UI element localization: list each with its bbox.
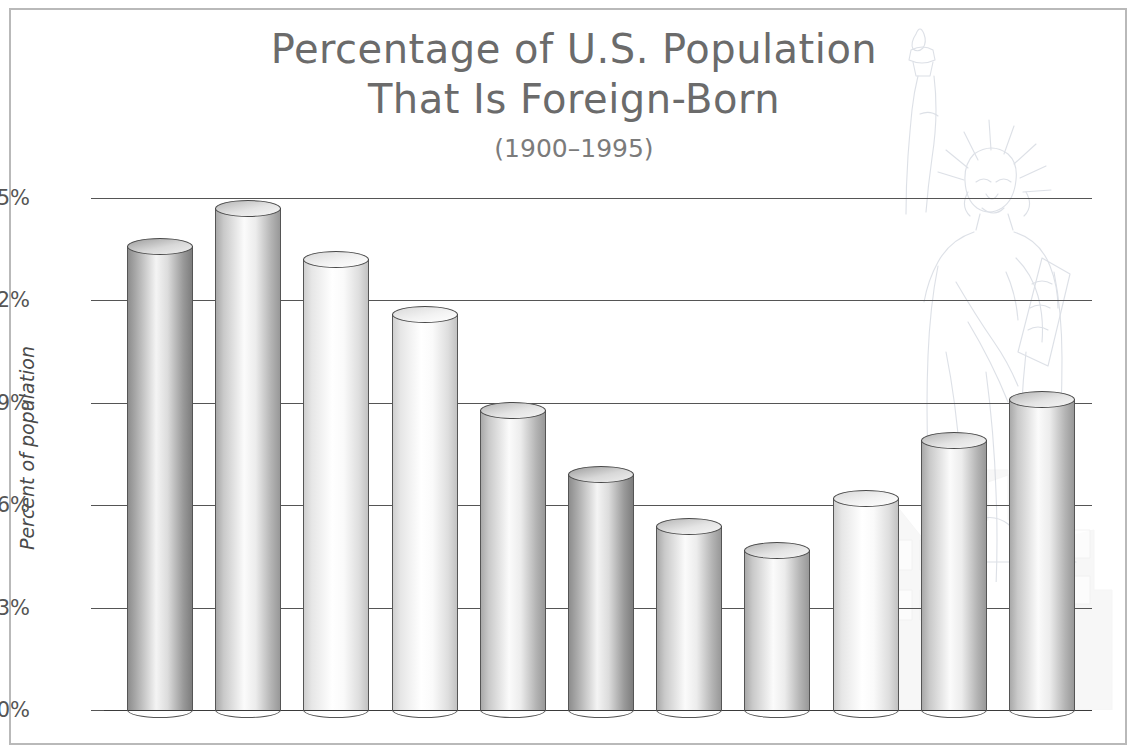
y-tick-label-12%: 12% [0, 288, 30, 312]
bar-1930[interactable] [392, 314, 458, 710]
y-tick-label-9%: 9% [0, 391, 30, 415]
bar-cylinder-body [215, 208, 281, 710]
bar-top-ellipse [656, 518, 722, 535]
bar-cylinder-body [127, 246, 193, 710]
bar-1950[interactable] [568, 474, 634, 710]
bar-1910[interactable] [215, 208, 281, 710]
bar-1940[interactable] [480, 410, 546, 710]
y-tick-mark [91, 710, 104, 711]
y-axis-title-label: Percent of population [16, 346, 38, 550]
bar-1970[interactable] [744, 550, 810, 710]
bar-1900[interactable] [127, 246, 193, 710]
y-tick-mark [91, 198, 104, 199]
bar-1920[interactable] [303, 259, 369, 710]
y-tick-mark [91, 300, 104, 301]
y-tick-mark [91, 403, 104, 404]
bar-cylinder-body [744, 550, 810, 710]
plot-area: 0%3%6%9%12%15%19001910192019301940195019… [104, 198, 1092, 710]
bar-cylinder-body [1009, 399, 1075, 710]
y-tick-label-15%: 15% [0, 186, 30, 210]
bar-cylinder-body [656, 526, 722, 710]
chart-page: Percentage of U.S. Population That Is Fo… [0, 0, 1148, 756]
bar-1980[interactable] [833, 498, 899, 710]
bar-cylinder-body [921, 440, 987, 710]
bar-cylinder-body [303, 259, 369, 710]
y-tick-label-6%: 6% [0, 493, 30, 517]
bar-1995[interactable] [1009, 399, 1075, 710]
y-tick-label-3%: 3% [0, 596, 30, 620]
gridline-15% [104, 198, 1092, 199]
bar-top-ellipse [744, 542, 810, 559]
bar-cylinder-body [568, 474, 634, 710]
bar-top-ellipse [392, 306, 458, 323]
bar-cylinder-body [480, 410, 546, 710]
bar-1960[interactable] [656, 526, 722, 710]
bar-cylinder-body [392, 314, 458, 710]
bar-top-ellipse [127, 238, 193, 255]
y-tick-mark [91, 608, 104, 609]
bar-cylinder-body [833, 498, 899, 710]
y-axis-title: Percent of population [12, 318, 42, 578]
y-tick-label-0%: 0% [0, 698, 30, 722]
bar-1990[interactable] [921, 440, 987, 710]
bar-top-ellipse [480, 402, 546, 419]
y-tick-mark [91, 505, 104, 506]
